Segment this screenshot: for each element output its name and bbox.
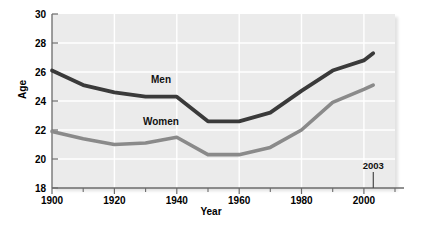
x-tick-1900: 1900 [41, 195, 64, 206]
y-tick-20: 20 [35, 154, 47, 165]
y-axis-tick-labels: 30 28 26 24 22 20 18 [35, 9, 47, 194]
annotation-2003-label: 2003 [363, 160, 384, 171]
x-axis-tick-labels: 1900 1920 1940 1960 1980 2000 [41, 195, 376, 206]
y-tick-24: 24 [35, 96, 47, 107]
y-tick-26: 26 [35, 67, 47, 78]
x-tick-1960: 1960 [228, 195, 251, 206]
series-label-men: Men [151, 74, 171, 85]
y-tick-18: 18 [35, 183, 47, 194]
y-tick-22: 22 [35, 125, 47, 136]
x-tick-1980: 1980 [290, 195, 313, 206]
y-tick-28: 28 [35, 38, 47, 49]
series-label-women: Women [143, 116, 179, 127]
x-tick-1920: 1920 [103, 195, 126, 206]
age-at-first-marriage-chart: Age Year [0, 0, 422, 228]
plot-svg: 30 28 26 24 22 20 18 1900 [0, 0, 422, 228]
y-tick-30: 30 [35, 9, 47, 20]
x-tick-2000: 2000 [353, 195, 376, 206]
x-tick-1940: 1940 [166, 195, 189, 206]
